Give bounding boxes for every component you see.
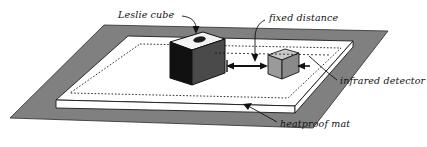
leslie-cube-diagram: Leslie cube fixed distance infrared dete… [0, 0, 427, 147]
label-fixed-distance: fixed distance [268, 12, 339, 23]
label-heatproof-mat: heatproof mat [280, 118, 350, 129]
label-leslie-cube: Leslie cube [117, 9, 175, 20]
diagram-canvas: Leslie cube fixed distance infrared dete… [0, 0, 427, 147]
leslie-cube-leader-line [182, 16, 196, 27]
leslie-cube-front-face [170, 42, 192, 85]
label-infrared-detector: infrared detector [340, 75, 427, 86]
